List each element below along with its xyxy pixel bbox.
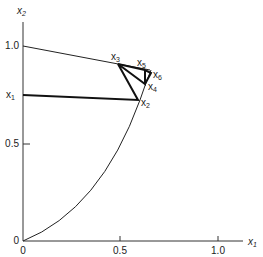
label-x1: x1 [6, 89, 15, 101]
y-axis-label: x2 [16, 5, 26, 17]
x-tick-label-1.0: 1.0 [211, 245, 225, 256]
diagram: 0 0.5 1.0 0 0.5 1.0 x2 x1 x1 x2 x3 x4 x5… [0, 0, 263, 257]
y-tick-label-0.5: 0.5 [5, 138, 19, 149]
label-x5: x5 [137, 57, 146, 69]
label-x6: x6 [153, 69, 162, 81]
x-axis-label: x1 [247, 236, 257, 248]
label-x3: x3 [111, 51, 120, 63]
y-tick-label-1.0: 1.0 [5, 40, 19, 51]
label-x2: x2 [141, 97, 150, 109]
iterate-path [23, 64, 151, 100]
x-tick-label-0.5: 0.5 [113, 245, 127, 256]
label-x4: x4 [148, 81, 157, 93]
x-tick-label-0: 0 [20, 245, 26, 256]
y-tick-label-0: 0 [13, 235, 19, 246]
